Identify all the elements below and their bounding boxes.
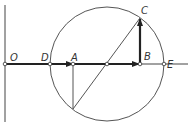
diagram-canvas: O D A B C E bbox=[0, 0, 194, 125]
point-O bbox=[3, 62, 7, 66]
label-D: D bbox=[41, 52, 49, 63]
point-center bbox=[105, 62, 109, 66]
point-B bbox=[138, 62, 142, 66]
label-E: E bbox=[167, 59, 174, 70]
label-A: A bbox=[70, 52, 78, 63]
label-O: O bbox=[10, 52, 18, 63]
label-B: B bbox=[144, 51, 151, 62]
point-D bbox=[48, 62, 52, 66]
label-C: C bbox=[141, 5, 148, 16]
point-E bbox=[162, 62, 166, 66]
